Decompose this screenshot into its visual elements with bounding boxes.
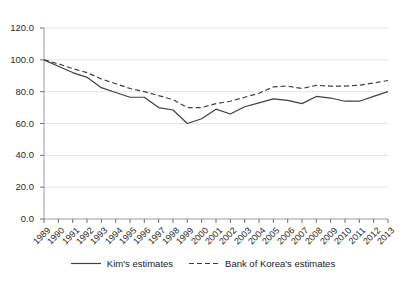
legend-entry[interactable]: Bank of Korea's estimates <box>189 258 335 269</box>
legend-entry[interactable]: Kim's estimates <box>71 258 173 269</box>
y-axis-tick-label: 120.0 <box>0 23 34 33</box>
y-axis-tick-label: 100.0 <box>0 55 34 65</box>
y-axis-tick-label: 60.0 <box>0 119 34 129</box>
line-chart: 0.020.040.060.080.0100.0120.0 1989199019… <box>0 0 406 281</box>
legend-label: Bank of Korea's estimates <box>225 258 335 269</box>
solid-line-icon <box>71 260 101 267</box>
y-axis-tick-label: 40.0 <box>0 150 34 160</box>
gridlines <box>44 28 388 187</box>
x-axis-ticks <box>44 219 388 223</box>
y-axis-tick-label: 20.0 <box>0 182 34 192</box>
y-axis-tick-label: 80.0 <box>0 87 34 97</box>
dashed-line-icon <box>189 260 219 267</box>
y-axis-tick-label: 0.0 <box>0 214 34 224</box>
y-axis-ticks <box>40 28 44 219</box>
legend-label: Kim's estimates <box>107 258 173 269</box>
chart-legend: Kim's estimatesBank of Korea's estimates <box>0 258 406 269</box>
